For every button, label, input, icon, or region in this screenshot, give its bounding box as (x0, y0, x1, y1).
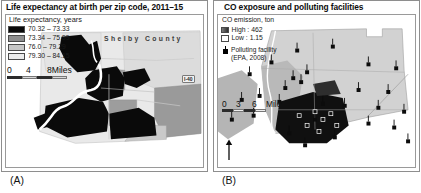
north-arrow-icon (224, 139, 234, 161)
scale-unit: Miles (266, 99, 286, 109)
legend-swatch-4 (8, 53, 25, 61)
panel-a-caption: (A) (10, 174, 24, 186)
scale-tick-1: 4 (26, 65, 31, 75)
scale-tick-0: 0 (7, 65, 12, 75)
legend-low-row: Low : 1.15 (221, 34, 276, 43)
scale-tick-1: 3 (236, 99, 241, 109)
legend-class-2: 73.34 – 75.99 (8, 34, 82, 43)
scale-tick-2: 8Miles (47, 65, 72, 75)
legend-swatch-2 (8, 35, 25, 43)
legend-label-1: 70.32 – 73.33 (28, 26, 70, 33)
polluting-facility-icon (221, 45, 230, 54)
legend-label-3: 76.0 – 79.29 (28, 44, 66, 51)
panel-b-map: CO emission, ton High : 462 Low : 1.15 P… (217, 14, 416, 168)
legend-swatch-3 (8, 44, 25, 52)
legend-label-high: High : 462 (232, 27, 263, 34)
panel-a-title: Life expectancy at birth per zip code, 2… (6, 2, 183, 12)
scale-bar-graphic (222, 109, 269, 112)
panel-b: CO exposure and polluting facilities (213, 0, 420, 172)
panel-b-caption: (B) (222, 174, 236, 186)
legend-swatch-1 (8, 26, 25, 34)
legend-label-low: Low : 1.15 (232, 35, 263, 42)
legend-class-4: 79.30 – 84.15 (8, 52, 82, 61)
figure-container: Life expectancy at birth per zip code, 2… (0, 0, 421, 193)
legend-label-4: 79.30 – 84.15 (28, 53, 70, 60)
panel-b-legend: CO emission, ton High : 462 Low : 1.15 P… (221, 17, 276, 62)
legend-high-row: High : 462 (221, 26, 276, 35)
legend-title: Life expectancy, years (9, 16, 82, 23)
panel-a-map: Life expectancy, years 70.32 – 73.33 73.… (5, 14, 204, 168)
legend-swatch-low (221, 35, 229, 42)
panel-a: Life expectancy at birth per zip code, 2… (1, 0, 208, 172)
legend-label-2: 73.34 – 75.99 (28, 35, 70, 42)
panel-b-scale-bar: 0 3 6 Miles (222, 99, 294, 112)
scale-tick-0: 0 (222, 99, 227, 109)
panel-a-scale-bar: 0 4 8Miles (7, 65, 81, 79)
panel-a-legend: Life expectancy, years 70.32 – 73.33 73.… (8, 16, 82, 61)
legend-class-3: 76.0 – 79.29 (8, 43, 82, 52)
legend-label-facility: Polluting facility (231, 46, 276, 53)
legend-swatch-high (221, 27, 229, 34)
scale-bar-graphic (7, 76, 67, 79)
legend-title: CO emission, ton (222, 17, 276, 24)
scale-tick-2: 6 (252, 99, 257, 109)
legend-facility-row: Polluting facility (221, 45, 276, 54)
panel-b-title: CO exposure and polluting facilities (224, 2, 363, 12)
legend-class-1: 70.32 – 73.33 (8, 25, 82, 34)
legend-label-facility-source: (EPA, 2008) (231, 54, 266, 61)
